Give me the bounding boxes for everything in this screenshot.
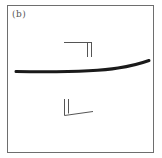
upper-bracket-symbol: [64, 43, 92, 58]
diagram-canvas: [0, 0, 162, 158]
main-curve: [16, 61, 149, 72]
lower-bracket-symbol: [65, 99, 94, 116]
